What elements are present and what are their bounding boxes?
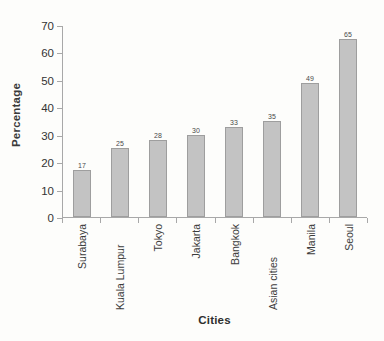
plot-area: 010203040506070 1725283033354965	[62, 26, 367, 218]
x-axis-label-slot: Jakarta	[177, 224, 215, 310]
bar-value-label: 17	[78, 162, 86, 169]
bar-value-label: 33	[230, 119, 238, 126]
x-axis-category-labels: SurabayaKuala LumpurTokyoJakartaBangkokA…	[63, 224, 368, 310]
bar-value-label: 65	[344, 31, 352, 38]
bar-slot: 33	[215, 26, 253, 217]
x-axis-category-label: Jakarta	[191, 224, 202, 258]
bar-slot: 17	[63, 26, 101, 217]
bar[interactable]: 17	[73, 170, 90, 217]
y-axis-tick-mark	[57, 163, 62, 164]
x-axis-tick-mark	[253, 218, 254, 223]
bars-layer: 1725283033354965	[63, 26, 367, 217]
y-axis-tick-mark	[57, 81, 62, 82]
y-axis-tick-mark	[57, 53, 62, 54]
bar-value-label: 25	[116, 140, 124, 147]
bar-slot: 35	[253, 26, 291, 217]
bar-value-label: 30	[192, 127, 200, 134]
x-axis-tick-mark	[291, 218, 292, 223]
bar-value-label: 28	[154, 132, 162, 139]
x-axis-label-slot: Manila	[292, 224, 330, 310]
bar-value-label: 49	[306, 75, 314, 82]
bar-chart: Percentage 010203040506070 1725283033354…	[0, 0, 384, 341]
y-axis-tick-label: 0	[48, 212, 54, 224]
x-axis-tick-mark	[215, 218, 216, 223]
x-axis-title: Cities	[62, 314, 367, 326]
y-axis-tick-label: 50	[41, 75, 54, 87]
bar[interactable]: 35	[263, 121, 280, 217]
x-axis-tick-mark	[176, 218, 177, 223]
y-axis-tick-label: 20	[41, 157, 54, 169]
x-axis-tick-mark	[367, 218, 368, 223]
x-axis-category-label: Kuala Lumpur	[115, 224, 126, 310]
y-axis-tick-label: 30	[41, 130, 54, 142]
bar-slot: 28	[139, 26, 177, 217]
y-axis-tick-mark	[57, 136, 62, 137]
x-axis-tick-mark	[138, 218, 139, 223]
bar-value-label: 35	[268, 113, 276, 120]
y-axis-title: Percentage	[10, 60, 28, 170]
bar-slot: 65	[329, 26, 367, 217]
bar-slot: 25	[101, 26, 139, 217]
x-axis-ticks	[62, 218, 367, 223]
bar[interactable]: 65	[339, 39, 356, 217]
x-axis-label-slot: Seoul	[330, 224, 368, 310]
x-axis-label-slot: Bangkok	[216, 224, 254, 310]
bar-slot: 30	[177, 26, 215, 217]
y-axis-tick-mark	[57, 26, 62, 27]
bar[interactable]: 25	[111, 148, 128, 217]
x-axis-category-label: Asian cities	[267, 224, 278, 310]
x-axis-label-slot: Surabaya	[63, 224, 101, 310]
y-axis-tick-label: 70	[41, 20, 54, 32]
y-axis-tick-label: 10	[41, 185, 54, 197]
y-axis-tick-label: 60	[41, 47, 54, 59]
y-axis-tick-mark	[57, 108, 62, 109]
y-axis-tick-label: 40	[41, 102, 54, 114]
bar[interactable]: 30	[187, 135, 204, 217]
x-axis-tick-mark	[100, 218, 101, 223]
x-axis-tick-mark	[329, 218, 330, 223]
x-axis-label-slot: Tokyo	[139, 224, 177, 310]
bar-slot: 49	[291, 26, 329, 217]
x-axis-label-slot: Asian cities	[254, 224, 292, 310]
x-axis-category-label: Tokyo	[153, 224, 164, 251]
x-axis-category-label: Surabaya	[77, 224, 88, 269]
y-axis-tick-mark	[57, 191, 62, 192]
x-axis-label-slot: Kuala Lumpur	[101, 224, 139, 310]
x-axis-category-label: Manila	[305, 224, 316, 255]
bar[interactable]: 49	[301, 83, 318, 217]
bar[interactable]: 28	[149, 140, 166, 217]
x-axis-category-label: Seoul	[343, 224, 354, 251]
x-axis-category-label: Bangkok	[229, 224, 240, 265]
x-axis-tick-mark	[62, 218, 63, 223]
bar[interactable]: 33	[225, 127, 242, 218]
